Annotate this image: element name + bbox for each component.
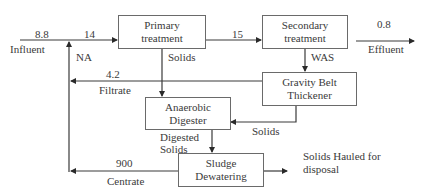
hauled-line2: disposal	[303, 163, 339, 175]
effluent-label: Effluent	[368, 43, 404, 55]
primary-solids-label: Solids	[168, 51, 196, 63]
thickened-solids-arrow	[231, 105, 296, 122]
digested-solids-line2: Solids	[160, 143, 188, 155]
centrate-label: Centrate	[107, 175, 144, 187]
hauled-line1: Solids Hauled for	[303, 150, 381, 162]
dewatering-line1: Sludge	[206, 157, 237, 170]
influent-label: Influent	[10, 43, 45, 55]
primary-line1: Primary	[144, 19, 179, 32]
primary-line2: treatment	[141, 32, 183, 45]
anaerobic-digester-box: Anaerobic Digester	[145, 97, 231, 130]
digester-line1: Anaerobic	[165, 101, 211, 114]
secondary-line1: Secondary	[282, 19, 328, 32]
na-label: NA	[76, 51, 92, 63]
thickened-solids-label: Solids	[252, 125, 280, 137]
gbt-line1: Gravity Belt	[282, 76, 337, 89]
was-label: WAS	[311, 51, 334, 63]
filtrate-value: 4.2	[106, 68, 120, 80]
sludge-dewatering-box: Sludge Dewatering	[178, 153, 264, 187]
digested-solids-line1: Digested	[160, 131, 199, 143]
combined-value: 14	[84, 28, 95, 40]
dewatering-line2: Dewatering	[195, 170, 246, 183]
effluent-value: 0.8	[377, 18, 391, 30]
filtrate-label: Filtrate	[99, 84, 131, 96]
gravity-belt-thickener-box: Gravity Belt Thickener	[262, 72, 357, 106]
influent-value: 8.8	[35, 28, 49, 40]
primary-to-secondary-value: 15	[232, 28, 243, 40]
secondary-treatment-box: Secondary treatment	[262, 15, 348, 49]
digester-line2: Digester	[169, 114, 206, 127]
secondary-line2: treatment	[284, 32, 326, 45]
centrate-value: 900	[116, 157, 133, 169]
primary-treatment-box: Primary treatment	[118, 15, 206, 49]
gbt-line2: Thickener	[287, 89, 332, 102]
